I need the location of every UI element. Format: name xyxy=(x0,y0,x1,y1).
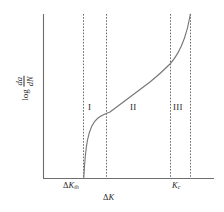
crack-growth-curve xyxy=(84,14,191,177)
x-axis-label: ΔK xyxy=(103,193,114,202)
fatigue-crack-growth-figure: log da dN I II III ΔKth Kc ΔK xyxy=(0,0,224,212)
y-axis-label-numerator: da xyxy=(15,76,24,87)
region-label-iii: III xyxy=(173,103,183,112)
y-axis-label-log: log xyxy=(19,89,29,101)
y-axis-label-fraction: da dN xyxy=(15,75,34,87)
y-axis-label: log da dN xyxy=(4,58,44,118)
x-tick-label-threshold: ΔKth xyxy=(63,181,79,190)
y-axis-label-denominator: dN xyxy=(25,75,34,87)
region-label-i: I xyxy=(88,103,91,112)
k-symbol-x-axis: K xyxy=(108,192,114,202)
x-tick-label-critical: Kc xyxy=(172,181,180,190)
subscript-th: th xyxy=(74,184,79,190)
subscript-c: c xyxy=(178,184,181,190)
region-label-ii: II xyxy=(130,103,136,112)
